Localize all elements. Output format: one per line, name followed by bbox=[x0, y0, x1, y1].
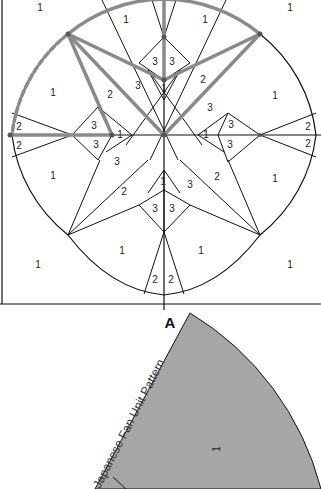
svg-text:2: 2 bbox=[16, 140, 22, 151]
svg-text:1: 1 bbox=[287, 2, 293, 13]
highlight-lines bbox=[10, 0, 260, 135]
svg-text:2: 2 bbox=[305, 138, 311, 149]
svg-text:3: 3 bbox=[91, 120, 97, 131]
svg-text:1: 1 bbox=[272, 90, 278, 101]
svg-text:3: 3 bbox=[228, 119, 234, 130]
svg-text:1: 1 bbox=[117, 129, 123, 140]
quilt-diagram: 1 1 1 1 3 3 1 3 2 1 2 3 1 2 2 3 3 1 1 3 … bbox=[0, 0, 321, 489]
block-frame bbox=[0, 0, 321, 310]
svg-text:2: 2 bbox=[107, 89, 113, 100]
svg-text:1: 1 bbox=[161, 83, 167, 94]
svg-text:3: 3 bbox=[187, 179, 193, 190]
svg-text:1: 1 bbox=[50, 87, 56, 98]
svg-text:1: 1 bbox=[50, 170, 56, 181]
svg-text:2: 2 bbox=[168, 274, 174, 285]
svg-text:1: 1 bbox=[35, 259, 41, 270]
svg-text:2: 2 bbox=[305, 121, 311, 132]
svg-text:3: 3 bbox=[207, 102, 213, 113]
svg-text:1: 1 bbox=[123, 14, 129, 25]
svg-text:2: 2 bbox=[16, 121, 22, 132]
svg-text:1: 1 bbox=[119, 245, 125, 256]
svg-text:1: 1 bbox=[287, 259, 293, 270]
svg-text:2: 2 bbox=[214, 171, 220, 182]
svg-text:3: 3 bbox=[135, 80, 141, 91]
svg-text:1: 1 bbox=[203, 129, 209, 140]
svg-text:3: 3 bbox=[93, 139, 99, 150]
svg-text:2: 2 bbox=[121, 186, 127, 197]
svg-text:1: 1 bbox=[272, 173, 278, 184]
svg-text:3: 3 bbox=[152, 56, 158, 67]
svg-text:3: 3 bbox=[152, 203, 158, 214]
pattern-piece-number: 1 bbox=[211, 446, 222, 452]
pattern-label: A bbox=[165, 314, 176, 331]
svg-text:3: 3 bbox=[169, 203, 175, 214]
svg-text:2: 2 bbox=[152, 274, 158, 285]
svg-text:2: 2 bbox=[200, 74, 206, 85]
svg-text:1: 1 bbox=[37, 2, 43, 13]
svg-text:1: 1 bbox=[198, 245, 204, 256]
svg-text:3: 3 bbox=[114, 156, 120, 167]
pattern-piece-a: A Japanese Fan Unit Pattern 1 bbox=[90, 313, 321, 489]
svg-text:3: 3 bbox=[169, 56, 175, 67]
svg-text:1: 1 bbox=[160, 176, 166, 187]
svg-text:1: 1 bbox=[202, 14, 208, 25]
svg-text:3: 3 bbox=[227, 139, 233, 150]
